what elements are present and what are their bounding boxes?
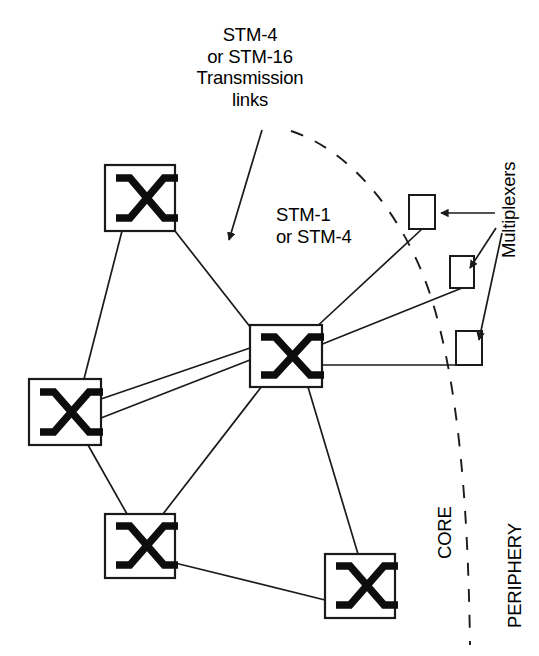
link-topleft-left [84, 231, 122, 379]
link-left-bottomleft [88, 445, 127, 514]
core-region-label: CORE [434, 506, 456, 559]
callout-arrows [229, 130, 502, 340]
node-multiplexer-2[interactable] [450, 256, 474, 288]
access-rate-label: STM-1 or STM-4 [276, 204, 352, 247]
node-cross-connect-center[interactable] [250, 325, 324, 387]
network-diagram: STM-4 or STM-16 Transmission links STM-1… [0, 0, 539, 656]
node-multiplexer-3[interactable] [456, 331, 482, 365]
link-left-center-b [101, 360, 250, 418]
link-left-center-a [101, 348, 250, 399]
link-center-mux2 [320, 288, 462, 345]
link-bottomleft-bottomright [175, 563, 325, 600]
multiplexers-label: Multiplexers [498, 162, 520, 258]
node-cross-connect-bottom-left[interactable] [105, 514, 178, 578]
arrow-multiplexers-to-mux2 [470, 228, 496, 268]
node-cross-connect-bottom-right[interactable] [325, 554, 398, 618]
link-topleft-center [175, 231, 258, 337]
access-links [312, 229, 469, 365]
periphery-region-label: PERIPHERY [504, 523, 526, 628]
multiplexer-nodes [409, 195, 482, 365]
node-cross-connect-top-left[interactable] [105, 165, 178, 231]
transmission-links-label: STM-4 or STM-16 Transmission links [185, 24, 315, 111]
node-cross-connect-left[interactable] [29, 379, 103, 445]
link-bottomleft-center [163, 386, 262, 514]
node-multiplexer-1[interactable] [409, 195, 435, 229]
arrow-transmission-links [229, 130, 262, 240]
link-center-bottomright [308, 387, 358, 554]
